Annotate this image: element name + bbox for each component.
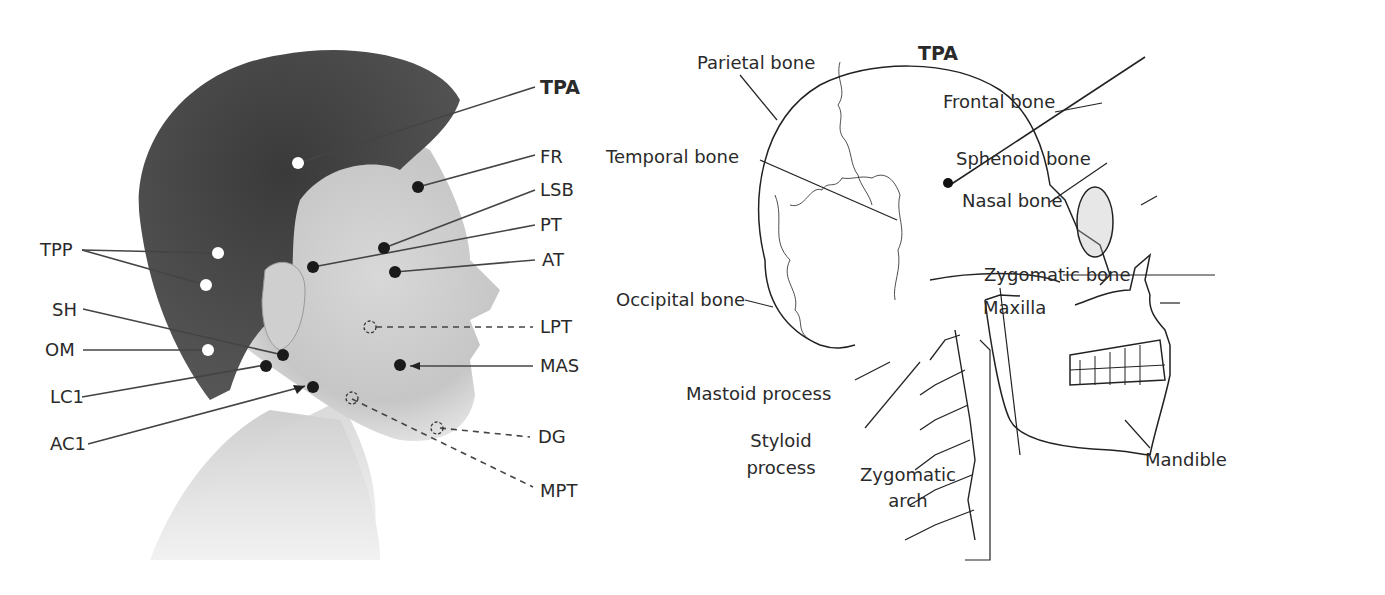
label-om: OM (45, 341, 75, 359)
label-at: AT (542, 251, 564, 269)
label-ac1: AC1 (50, 435, 86, 453)
label-frontal-bone: Frontal bone (943, 93, 1055, 111)
label-tpp: TPP (40, 241, 73, 259)
label-sh: SH (52, 301, 77, 319)
label-zygomatic-arch-line1: Zygomatic (858, 466, 958, 484)
label-temporal-bone: Temporal bone (606, 148, 739, 166)
label-dg: DG (538, 428, 566, 446)
label-mas: MAS (540, 357, 579, 375)
label-tpa: TPA (540, 78, 580, 96)
label-lsb: LSB (540, 181, 574, 199)
label-parietal-bone: Parietal bone (697, 54, 815, 72)
label-occipital-bone: Occipital bone (616, 291, 745, 309)
label-maxilla: Maxilla (983, 299, 1046, 317)
label-styloid-process-line2: process (736, 459, 826, 477)
label-styloid-process-line1: Styloid (736, 432, 826, 450)
label-mpt: MPT (540, 482, 577, 500)
skull-figure: Parietal bone TPA Frontal bone Temporal … (590, 0, 1385, 595)
label-lpt: LPT (540, 318, 572, 336)
head-profile-figure: TPA FR LSB PT AT TPP SH OM LC1 AC1 LPT M… (0, 0, 600, 595)
label-mandible: Mandible (1145, 451, 1227, 469)
label-fr: FR (540, 148, 563, 166)
label-zygomatic-bone: Zygomatic bone (984, 266, 1131, 284)
label-pt: PT (540, 216, 562, 234)
label-tpa-skull: TPA (918, 44, 958, 62)
label-nasal-bone: Nasal bone (962, 192, 1063, 210)
label-lc1: LC1 (50, 388, 84, 406)
label-zygomatic-arch-line2: arch (858, 492, 958, 510)
label-sphenoid-bone: Sphenoid bone (956, 150, 1091, 168)
label-mastoid-process: Mastoid process (686, 385, 831, 403)
head-profile-illustration (0, 0, 600, 595)
